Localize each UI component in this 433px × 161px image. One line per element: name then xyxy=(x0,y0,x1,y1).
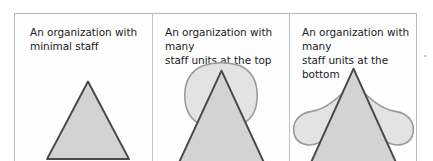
panel-staff-at-top: An organization with many staff units at… xyxy=(152,14,289,161)
panel-minimal-staff: An organization with minimal staff xyxy=(15,14,152,161)
panel-staff-at-bottom: An organization with many staff units at… xyxy=(289,14,417,161)
triangle-shape xyxy=(47,82,129,160)
triangle-with-top-blob-graphic xyxy=(153,14,289,161)
panel-artwork xyxy=(290,14,417,161)
panel-artwork xyxy=(15,14,152,161)
scan-speck-artifact xyxy=(424,55,427,57)
triangle-with-bottom-blob-graphic xyxy=(290,14,417,161)
triangle-only-graphic xyxy=(15,14,152,161)
figure-frame: An organization with minimal staff An or… xyxy=(14,13,417,161)
figure-root: An organization with minimal staff An or… xyxy=(0,0,433,161)
panel-artwork xyxy=(153,14,289,161)
